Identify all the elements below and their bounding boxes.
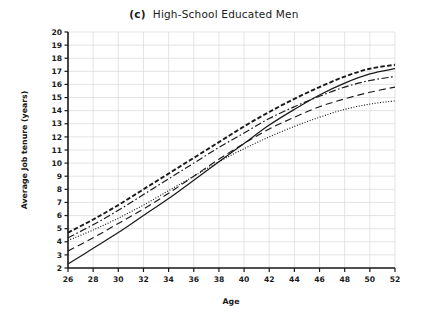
y-tick-label: 20 [51, 28, 62, 37]
x-tick-label: 42 [264, 275, 275, 284]
gridlines [68, 32, 395, 268]
x-tick-label: 50 [365, 275, 376, 284]
y-tick-label: 5 [57, 224, 62, 233]
x-tick-label: 36 [188, 275, 199, 284]
series-lines [68, 65, 395, 264]
y-tick-label: 11 [51, 146, 62, 155]
x-tick-label: 26 [63, 275, 74, 284]
x-tick-label: 38 [214, 275, 225, 284]
panel-letter: (c) [129, 8, 145, 20]
y-tick-label: 6 [57, 211, 62, 220]
y-tick-label: 3 [57, 251, 62, 260]
x-tick-label: 30 [113, 275, 124, 284]
chart-figure: (c)High-School Educated Men 234567891011… [0, 0, 428, 315]
series-line-dash-dot [68, 77, 395, 238]
series-line-solid [68, 69, 395, 264]
chart-title: (c)High-School Educated Men [0, 8, 428, 20]
y-tick-label: 7 [57, 198, 62, 207]
y-tick-label: 16 [51, 80, 62, 89]
x-tick-label: 32 [138, 275, 149, 284]
x-tick-label: 48 [339, 275, 350, 284]
series-line-thick-dash [68, 65, 395, 233]
axis-tick-labels: 2345678910111213141516171819202628303234… [51, 28, 400, 284]
y-tick-label: 10 [51, 159, 62, 168]
y-tick-label: 12 [51, 133, 62, 142]
y-tick-label: 2 [57, 264, 62, 273]
y-tick-label: 17 [51, 67, 62, 76]
y-tick-label: 13 [51, 119, 62, 128]
x-tick-label: 28 [88, 275, 99, 284]
x-tick-label: 34 [163, 275, 174, 284]
y-tick-label: 19 [51, 41, 62, 50]
chart-title-text: High-School Educated Men [153, 8, 299, 20]
x-axis-title: Age [223, 297, 240, 306]
series-line-fine-dotted [68, 101, 395, 241]
y-axis-title: Average Job tenure (years) [20, 91, 29, 210]
x-tick-label: 52 [390, 275, 401, 284]
y-tick-label: 8 [57, 185, 62, 194]
y-tick-label: 4 [57, 237, 62, 246]
series-line-long-dash [68, 87, 395, 251]
y-tick-label: 9 [57, 172, 62, 181]
x-tick-label: 46 [314, 275, 325, 284]
x-tick-label: 40 [239, 275, 250, 284]
y-tick-label: 14 [51, 106, 62, 115]
y-tick-label: 15 [51, 93, 62, 102]
x-tick-label: 44 [289, 275, 300, 284]
y-tick-label: 18 [51, 54, 62, 63]
chart-plot-area: 2345678910111213141516171819202628303234… [0, 0, 428, 315]
